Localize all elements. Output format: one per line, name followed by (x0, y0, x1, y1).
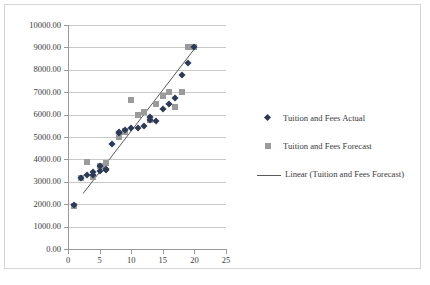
plot-area (68, 25, 226, 249)
data-point-forecast (166, 89, 172, 95)
x-tick-mark (226, 250, 227, 254)
screenshot-root: 0.001000.002000.003000.004000.005000.006… (0, 0, 430, 285)
x-tick-mark (131, 250, 132, 254)
legend-line-swatch (257, 175, 281, 176)
data-point-forecast (84, 159, 90, 165)
legend-item: Linear (Tuition and Fees Forecast) (253, 169, 423, 181)
y-axis-tick-label: 10000.00 (5, 21, 61, 30)
legend-item: Tuition and Fees Actual (253, 113, 423, 125)
x-tick-mark (100, 250, 101, 254)
x-axis-tick-label: 0 (56, 256, 80, 265)
x-axis-tick-label: 5 (88, 256, 112, 265)
legend-diamond-swatch (264, 114, 271, 121)
data-point-forecast (172, 104, 178, 110)
data-point-forecast (128, 97, 134, 103)
x-tick-mark (68, 250, 69, 254)
y-axis-tick-label: 7000.00 (5, 88, 61, 97)
y-axis-tick-label: 2000.00 (5, 200, 61, 209)
data-point-forecast (179, 89, 185, 95)
y-axis-tick-label: 6000.00 (5, 110, 61, 119)
y-axis-tick-label: 0.00 (5, 245, 61, 254)
data-point-forecast (160, 93, 166, 99)
y-axis-tick-label: 4000.00 (5, 155, 61, 164)
data-point-forecast (141, 109, 147, 115)
legend-item: Tuition and Fees Forecast (253, 141, 423, 153)
x-axis-tick-label: 20 (182, 256, 206, 265)
y-axis-tick-label: 1000.00 (5, 222, 61, 231)
legend-label: Tuition and Fees Forecast (283, 141, 423, 152)
data-point-forecast (153, 101, 159, 107)
legend-label: Linear (Tuition and Fees Forecast) (285, 169, 423, 180)
legend-square-swatch (265, 143, 271, 149)
y-axis-tick-label: 5000.00 (5, 133, 61, 142)
x-axis-line (68, 249, 227, 250)
y-axis-tick-label: 9000.00 (5, 43, 61, 52)
caption-strip (0, 276, 430, 285)
y-axis-tick-label: 8000.00 (5, 65, 61, 74)
legend-label: Tuition and Fees Actual (283, 113, 423, 124)
y-axis-tick-label: 3000.00 (5, 177, 61, 186)
data-point-forecast (135, 112, 141, 118)
chart-frame: 0.001000.002000.003000.004000.005000.006… (4, 4, 421, 269)
x-tick-mark (194, 250, 195, 254)
x-axis-tick-label: 10 (119, 256, 143, 265)
chart-legend: Tuition and Fees ActualTuition and Fees … (253, 113, 423, 197)
x-tick-mark (163, 250, 164, 254)
linear-trendline (68, 25, 226, 249)
x-axis-tick-label: 15 (151, 256, 175, 265)
x-axis-tick-label: 25 (214, 256, 238, 265)
